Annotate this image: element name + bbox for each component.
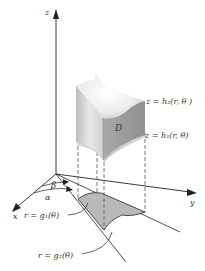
lower-surface-label: z = h₁(r, θ) (144, 131, 188, 140)
inner-curve-label: r = g₁(θ) (24, 211, 59, 220)
diagram-canvas: z x y β α z = h₂(r, θ ) D z = h₁(r, θ) r… (0, 0, 205, 271)
x-axis (17, 174, 56, 207)
y-axis-arrow-icon (187, 189, 197, 196)
x-axis-label: x (13, 212, 18, 221)
outer-curve-label: r = g₂(θ) (38, 251, 73, 260)
alpha-label: α (45, 193, 51, 202)
g2-leader (82, 232, 112, 254)
upper-surface-label: z = h₂(r, θ ) (145, 97, 192, 106)
solid-D (76, 72, 145, 162)
y-axis-label: y (189, 198, 195, 207)
beta-label: β (50, 180, 56, 190)
z-axis-arrow-icon (53, 9, 59, 19)
base-region (78, 193, 145, 230)
solid-label: D (114, 123, 122, 133)
z-axis-label: z (44, 8, 50, 17)
